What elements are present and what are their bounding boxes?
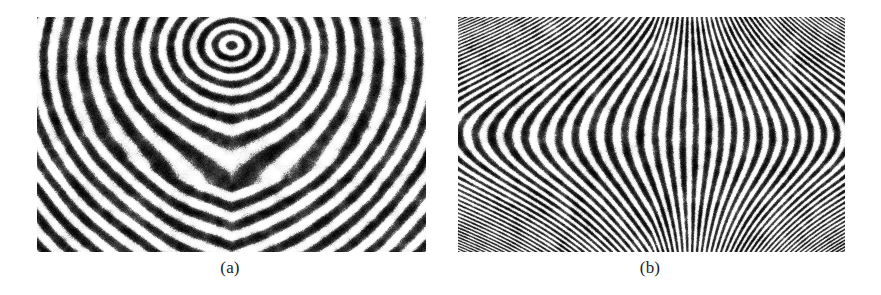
fingerprint-image-b [458,17,845,252]
panel-a-caption: (a) [130,259,330,277]
figure-root: (a) (b) [0,0,881,295]
panel-b-caption: (b) [550,259,750,277]
panel-b [458,17,845,252]
panel-a [37,17,426,252]
fingerprint-image-a [37,17,426,252]
